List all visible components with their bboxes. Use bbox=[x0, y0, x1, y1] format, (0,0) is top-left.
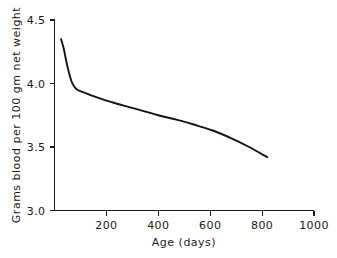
y-tick-label: 4.5 bbox=[27, 14, 46, 27]
y-tick-label: 3.0 bbox=[27, 205, 46, 218]
chart-figure: 3.03.54.04.5 2004006008001000 Age (days)… bbox=[0, 0, 337, 258]
x-tick-label: 800 bbox=[251, 219, 273, 232]
x-tick-label: 600 bbox=[199, 219, 221, 232]
y-axis-title: Grams blood per 100 gm net weight bbox=[10, 7, 23, 223]
chart-plot-svg: 3.03.54.04.5 2004006008001000 Age (days)… bbox=[0, 0, 337, 258]
y-tick-label: 3.5 bbox=[27, 141, 46, 154]
x-tick-label: 400 bbox=[147, 219, 169, 232]
x-tick-label: 1000 bbox=[299, 219, 329, 232]
y-tick-label: 4.0 bbox=[27, 78, 46, 91]
x-axis-title: Age (days) bbox=[152, 236, 216, 249]
x-tick-label: 200 bbox=[95, 219, 117, 232]
